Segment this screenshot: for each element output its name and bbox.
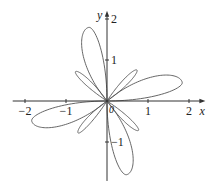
y-axis-label: y — [96, 8, 103, 22]
ticks: −2−11221−1 — [19, 12, 192, 149]
y-tick-label: −1 — [111, 135, 124, 149]
y-tick-label: 1 — [111, 53, 117, 67]
x-tick-label: 1 — [145, 104, 151, 118]
x-tick-label: −2 — [19, 104, 32, 118]
x-tick-label: −1 — [60, 104, 73, 118]
x-tick-label: 2 — [186, 104, 192, 118]
polar-plot: −2−11221−1 x y 0 — [0, 0, 221, 185]
origin-label: 0 — [109, 104, 114, 115]
large-lobe — [82, 27, 107, 101]
plot-canvas: −2−11221−1 x y 0 — [0, 0, 221, 185]
large-lobe — [107, 75, 182, 101]
y-axis-arrow-icon — [105, 11, 109, 17]
y-tick-label: 2 — [111, 12, 117, 26]
x-axis-arrow-icon — [199, 99, 205, 103]
axes — [13, 11, 206, 181]
small-lobe — [75, 71, 107, 101]
x-axis-label: x — [198, 104, 205, 118]
small-lobe — [107, 70, 137, 101]
